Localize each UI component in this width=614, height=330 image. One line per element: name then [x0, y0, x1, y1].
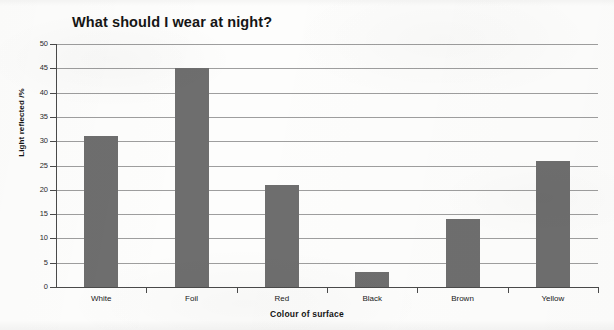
y-tick-label: 50	[22, 40, 48, 48]
y-tick-label: 15	[22, 210, 48, 218]
y-tick-mark	[50, 44, 56, 45]
y-tick-mark	[50, 141, 56, 142]
bar-yellow[interactable]	[536, 161, 570, 287]
gridline-20	[56, 190, 598, 191]
bar-brown[interactable]	[446, 219, 480, 287]
x-tick-mark	[146, 288, 147, 293]
y-tick-label: 25	[22, 162, 48, 170]
y-tick-mark	[50, 166, 56, 167]
x-axis-title: Colour of surface	[0, 309, 614, 319]
gridline-15	[56, 214, 598, 215]
y-tick-label: 45	[22, 64, 48, 72]
y-tick-mark	[50, 238, 56, 239]
gridline-5	[56, 263, 598, 264]
y-tick-mark	[50, 263, 56, 264]
y-axis-title: Light reflected /%	[17, 88, 26, 156]
gridline-25	[56, 166, 598, 167]
y-tick-label: 40	[22, 89, 48, 97]
bar-white[interactable]	[84, 136, 118, 287]
x-tick-mark	[327, 288, 328, 293]
bar-red[interactable]	[265, 185, 299, 287]
y-tick-mark	[50, 214, 56, 215]
x-tick-label-foil: Foil	[147, 295, 237, 303]
y-axis-line	[56, 44, 57, 288]
y-tick-mark	[50, 117, 56, 118]
gridline-30	[56, 141, 598, 142]
y-tick-mark	[50, 68, 56, 69]
x-tick-label-red: Red	[237, 295, 327, 303]
y-tick-mark	[50, 93, 56, 94]
chart-title: What should I wear at night?	[72, 14, 272, 30]
gridline-35	[56, 117, 598, 118]
x-tick-mark	[508, 288, 509, 293]
y-tick-label: 0	[22, 283, 48, 291]
x-tick-label-brown: Brown	[418, 295, 508, 303]
x-tick-label-white: White	[56, 295, 146, 303]
y-tick-label: 30	[22, 137, 48, 145]
gridline-50	[56, 44, 598, 45]
chart-page: What should I wear at night? Light refle…	[0, 0, 614, 330]
scan-edge-top	[0, 0, 614, 6]
bar-foil[interactable]	[175, 68, 209, 287]
gridline-45	[56, 68, 598, 69]
bar-black[interactable]	[355, 272, 389, 287]
x-tick-label-yellow: Yellow	[508, 295, 598, 303]
y-tick-mark	[50, 287, 56, 288]
x-tick-mark	[598, 288, 599, 293]
y-tick-label: 10	[22, 234, 48, 242]
y-tick-label: 20	[22, 186, 48, 194]
x-tick-label-black: Black	[327, 295, 417, 303]
y-tick-mark	[50, 190, 56, 191]
x-tick-mark	[417, 288, 418, 293]
y-tick-label: 35	[22, 113, 48, 121]
gridline-40	[56, 93, 598, 94]
x-tick-mark	[237, 288, 238, 293]
scan-edge-bottom	[0, 320, 614, 330]
gridline-10	[56, 238, 598, 239]
y-tick-label: 5	[22, 259, 48, 267]
plot-area	[56, 44, 598, 287]
